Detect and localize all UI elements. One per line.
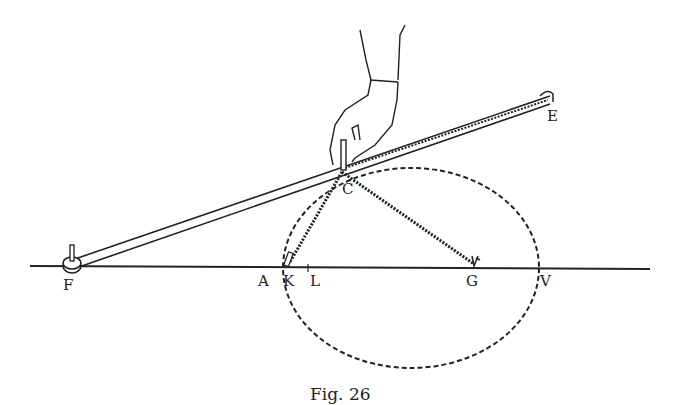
pin-K-icon xyxy=(284,252,293,267)
pin-G-icon xyxy=(472,256,480,266)
baseline xyxy=(30,266,650,269)
figure-caption: Fig. 26 xyxy=(310,384,371,404)
ruler-FE xyxy=(72,91,553,268)
label-E: E xyxy=(547,107,558,125)
label-K: K xyxy=(283,272,295,290)
string-CG xyxy=(342,172,474,264)
pin-F-icon xyxy=(63,245,81,273)
label-G: G xyxy=(466,272,478,290)
ellipse-construction-diagram: F E C A K L G V Fig. 26 xyxy=(0,0,673,405)
label-L: L xyxy=(310,272,320,290)
label-V: V xyxy=(539,272,552,290)
label-C: C xyxy=(342,180,353,198)
label-A: A xyxy=(257,272,269,290)
hand-with-pencil-icon xyxy=(330,25,405,170)
label-F: F xyxy=(63,276,73,294)
